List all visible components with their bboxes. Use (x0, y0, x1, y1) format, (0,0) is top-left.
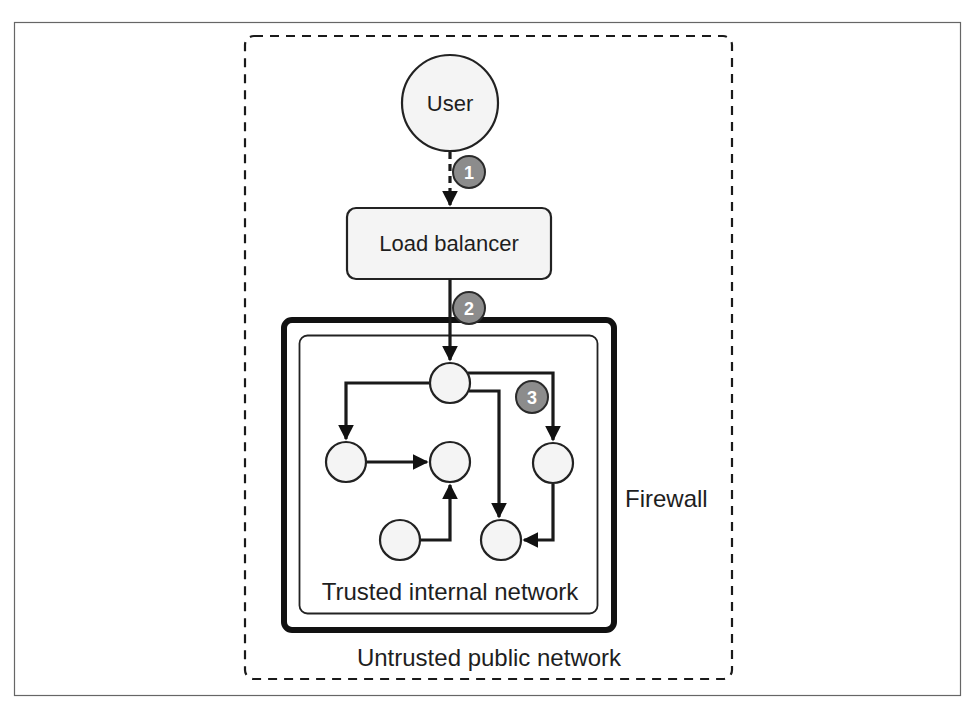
step-badge-2: 2 (453, 292, 485, 324)
firewall-label: Firewall (625, 485, 708, 512)
step-badge-1-number: 1 (464, 163, 474, 183)
internal-node-bottom-left (380, 520, 420, 560)
load-balancer-node: Load balancer (347, 208, 551, 279)
internal-node-left (326, 442, 366, 482)
user-node: User (402, 55, 498, 151)
user-label: User (427, 91, 473, 116)
trusted-network-label: Trusted internal network (322, 578, 580, 605)
internal-node-middle (430, 442, 470, 482)
load-balancer-label: Load balancer (379, 231, 518, 256)
network-diagram: User Load balancer 1 2 3 Trusted interna… (0, 0, 976, 708)
internal-node-right (533, 443, 573, 483)
internal-node-bottom-right (481, 520, 521, 560)
step-badge-3-number: 3 (527, 388, 537, 408)
step-badge-2-number: 2 (464, 299, 474, 319)
step-badge-3: 3 (516, 381, 548, 413)
untrusted-network-label: Untrusted public network (357, 644, 622, 671)
internal-node-entry (430, 363, 470, 403)
step-badge-1: 1 (453, 156, 485, 188)
